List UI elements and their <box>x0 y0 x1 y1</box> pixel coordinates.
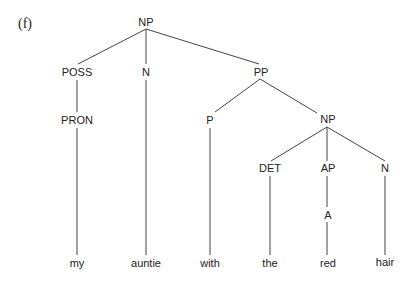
node-np-root: NP <box>138 16 153 28</box>
word-the: the <box>262 257 277 269</box>
node-ap: AP <box>321 162 336 174</box>
node-np2: NP <box>320 113 335 125</box>
word-auntie: auntie <box>131 257 161 269</box>
example-label: (f) <box>18 16 32 32</box>
node-n1: N <box>142 66 150 78</box>
node-pp: PP <box>254 66 269 78</box>
word-hair: hair <box>376 256 394 268</box>
word-red: red <box>320 257 336 269</box>
node-a: A <box>324 209 331 221</box>
node-n2: N <box>381 162 389 174</box>
tree-branches <box>0 0 411 281</box>
word-with: with <box>200 257 220 269</box>
node-p: P <box>206 114 213 126</box>
word-my: my <box>70 257 85 269</box>
node-poss: POSS <box>62 66 93 78</box>
node-det: DET <box>259 162 281 174</box>
node-pron: PRON <box>61 114 93 126</box>
